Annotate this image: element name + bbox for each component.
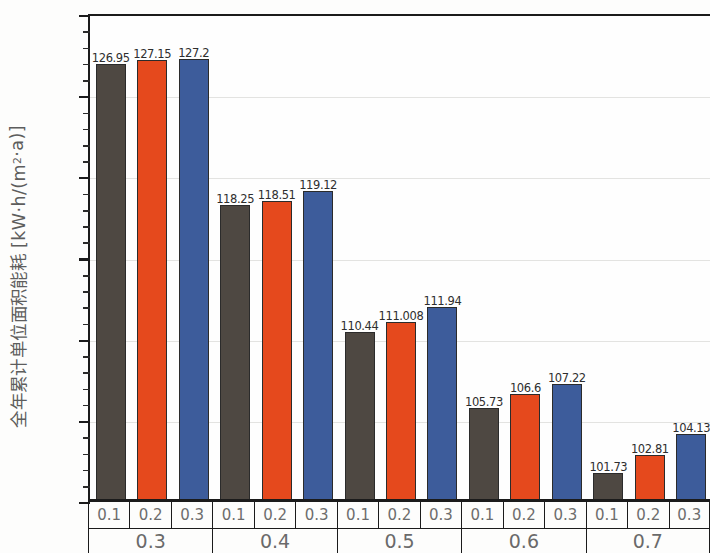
x-axis-subcategory-label: 0.2: [129, 501, 170, 528]
bar-value-label: 102.81: [631, 442, 669, 456]
x-axis-subcategory-label: 0.3: [295, 501, 336, 528]
y-axis-tick-minor: [83, 129, 90, 131]
bar: [635, 455, 665, 501]
y-axis-tick-minor: [83, 372, 90, 374]
bar-value-label: 106.6: [510, 381, 541, 395]
y-axis-tick-major: [79, 258, 90, 260]
x-axis-subcategory-label: 0.1: [212, 501, 253, 528]
x-axis-category-label: 0.7: [586, 529, 710, 553]
y-axis-tick-major: [79, 96, 90, 98]
y-axis-tick-minor: [83, 307, 90, 309]
bar-chart: 全年累计单位面积能耗 [kW·h/(m2·a)] 100105110115120…: [0, 0, 710, 553]
bar-value-label: 118.51: [258, 188, 296, 202]
y-axis-tick-minor: [83, 31, 90, 33]
bar: [427, 307, 457, 501]
y-axis-tick-minor: [83, 470, 90, 472]
plot-inner: 100105110115120125130126.95127.15127.211…: [90, 16, 710, 501]
bar-value-label: 127.2: [178, 46, 209, 60]
x-axis-category-label: 0.5: [337, 529, 461, 553]
x-axis-category-label: 0.4: [212, 529, 336, 553]
y-axis-tick-minor: [83, 356, 90, 358]
bar: [220, 205, 250, 501]
y-axis-tick-minor: [83, 161, 90, 163]
bar: [469, 408, 499, 501]
x-axis-subcategory-label: 0.1: [586, 501, 627, 528]
bar-value-label: 111.008: [379, 309, 424, 323]
x-axis-subcategory-label: 0.3: [420, 501, 461, 528]
bar-value-label: 126.95: [92, 51, 130, 65]
bar: [676, 434, 706, 501]
bar-value-label: 107.22: [548, 371, 586, 385]
y-axis-tick-minor: [83, 194, 90, 196]
y-axis-title-text: 全年累计单位面积能耗 [kW·h/(m: [5, 164, 30, 428]
x-axis-subcategory-label: 0.2: [503, 501, 544, 528]
y-axis-title-text-tail: ·a)]: [7, 125, 27, 157]
x-axis-category-label: 0.6: [461, 529, 585, 553]
y-axis-tick-minor: [83, 226, 90, 228]
y-axis-tick-major: [79, 340, 90, 342]
x-axis-subcategory-label: 0.3: [544, 501, 585, 528]
bar-value-label: 104.13: [672, 421, 710, 435]
y-axis-tick-minor: [83, 48, 90, 50]
y-axis-tick-minor: [83, 454, 90, 456]
x-axis-category-row: 0.30.40.50.60.7: [88, 529, 710, 553]
bar-value-label: 119.12: [299, 178, 337, 192]
x-axis-subcategory-row: 0.10.20.30.10.20.30.10.20.30.10.20.30.10…: [88, 501, 710, 529]
y-axis-tick-minor: [83, 145, 90, 147]
x-axis-subcategory-label: 0.3: [669, 501, 710, 528]
plot-area: 100105110115120125130126.95127.15127.211…: [88, 14, 710, 501]
x-axis-subcategory-label: 0.2: [627, 501, 668, 528]
y-axis-unit-exponent: 2: [11, 157, 24, 164]
bar: [510, 394, 540, 501]
bar-value-label: 105.73: [465, 395, 503, 409]
bar-value-label: 127.15: [133, 47, 171, 61]
bar-value-label: 118.25: [216, 192, 254, 206]
x-axis-subcategory-label: 0.2: [378, 501, 419, 528]
y-axis-tick-minor: [83, 80, 90, 82]
bar: [386, 322, 416, 501]
y-axis-tick-minor: [83, 210, 90, 212]
bar: [96, 64, 126, 501]
y-axis-tick-major: [79, 421, 90, 423]
y-axis-tick-minor: [83, 242, 90, 244]
bar: [303, 191, 333, 501]
y-axis-tick-major: [79, 177, 90, 179]
bar: [179, 59, 209, 501]
bar: [345, 332, 375, 501]
bar: [262, 201, 292, 501]
x-axis-subcategory-label: 0.1: [461, 501, 502, 528]
bar: [552, 384, 582, 501]
x-axis-subcategory-label: 0.1: [337, 501, 378, 528]
y-axis-tick-minor: [83, 405, 90, 407]
x-axis-subcategory-label: 0.1: [88, 501, 129, 528]
y-axis-title: 全年累计单位面积能耗 [kW·h/(m2·a)]: [0, 0, 34, 553]
bar-value-label: 111.94: [424, 294, 462, 308]
bar-value-label: 110.44: [341, 319, 379, 333]
bar: [137, 60, 167, 501]
y-axis-tick-minor: [83, 113, 90, 115]
y-axis-tick-minor: [83, 486, 90, 488]
y-axis-tick-minor: [83, 437, 90, 439]
y-axis-tick-minor: [83, 291, 90, 293]
x-axis-subcategory-label: 0.3: [171, 501, 212, 528]
bar: [593, 473, 623, 501]
bar-value-label: 101.73: [589, 460, 627, 474]
x-axis-category-label: 0.3: [88, 529, 212, 553]
y-axis-tick-minor: [83, 64, 90, 66]
y-axis-tick-minor: [83, 324, 90, 326]
y-axis-tick-minor: [83, 389, 90, 391]
y-axis-tick-major: [79, 15, 90, 17]
y-axis-tick-minor: [83, 275, 90, 277]
x-axis-subcategory-label: 0.2: [254, 501, 295, 528]
